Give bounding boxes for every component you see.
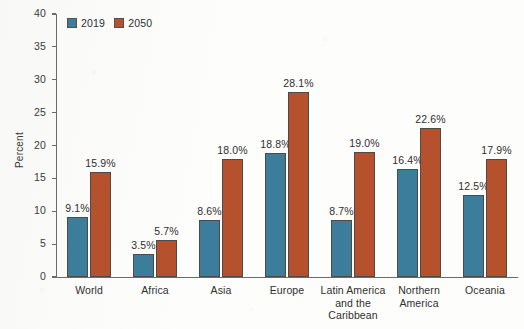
y-tick-label: 40 xyxy=(22,7,46,19)
y-tick-mark xyxy=(52,13,56,14)
bar-value-label: 15.9% xyxy=(77,157,125,169)
x-category-label: Oceania xyxy=(445,284,524,297)
bar-value-label: 19.0% xyxy=(341,137,389,149)
bar-2019-oceania[interactable] xyxy=(463,195,484,277)
bar-2050-oceania[interactable] xyxy=(486,159,507,277)
bar-value-label: 22.6% xyxy=(407,113,455,125)
x-axis-line xyxy=(56,277,518,278)
bar-2050-northern-america[interactable] xyxy=(420,128,441,277)
y-tick-label: 30 xyxy=(22,73,46,85)
chart-legend: 2019 2050 xyxy=(67,17,152,29)
y-tick-mark xyxy=(52,145,56,146)
y-tick-mark xyxy=(52,244,56,245)
y-tick-label: 0 xyxy=(22,270,46,282)
y-axis-line xyxy=(56,14,57,277)
y-tick-mark xyxy=(52,178,56,179)
bar-2050-europe[interactable] xyxy=(288,92,309,277)
legend-entry-2050[interactable]: 2050 xyxy=(114,17,152,29)
y-tick-label: 5 xyxy=(22,237,46,249)
legend-swatch-2019 xyxy=(67,18,77,28)
bar-2050-latin-america-and-the-caribbean[interactable] xyxy=(354,152,375,277)
bar-2019-europe[interactable] xyxy=(265,153,286,277)
legend-entry-2019[interactable]: 2019 xyxy=(67,17,105,29)
chart-figure: 2019 2050 Percent 05101520253035409.1%15… xyxy=(0,0,524,329)
y-tick-mark xyxy=(52,276,56,277)
bar-2050-world[interactable] xyxy=(90,172,111,277)
bar-2050-africa[interactable] xyxy=(156,240,177,277)
legend-swatch-2050 xyxy=(114,18,124,28)
bar-2050-asia[interactable] xyxy=(222,159,243,277)
bar-2019-northern-america[interactable] xyxy=(397,169,418,277)
legend-label-2019: 2019 xyxy=(81,17,105,29)
y-tick-mark xyxy=(52,46,56,47)
y-tick-label: 35 xyxy=(22,40,46,52)
bar-2019-africa[interactable] xyxy=(133,254,154,277)
y-tick-label: 25 xyxy=(22,106,46,118)
plot-area: 2019 2050 Percent 05101520253035409.1%15… xyxy=(0,0,524,329)
legend-label-2050: 2050 xyxy=(128,17,152,29)
bar-2019-latin-america-and-the-caribbean[interactable] xyxy=(331,220,352,277)
bar-value-label: 5.7% xyxy=(143,225,191,237)
x-category-label-line: Caribbean xyxy=(313,309,393,322)
y-tick-label: 15 xyxy=(22,171,46,183)
bar-value-label: 28.1% xyxy=(275,77,323,89)
y-tick-label: 10 xyxy=(22,204,46,216)
bar-value-label: 17.9% xyxy=(473,144,521,156)
bar-2019-asia[interactable] xyxy=(199,220,220,277)
x-category-label-line: America xyxy=(379,297,459,310)
bar-value-label: 18.0% xyxy=(209,144,257,156)
y-tick-label: 20 xyxy=(22,139,46,151)
bar-2019-world[interactable] xyxy=(67,217,88,277)
y-tick-mark xyxy=(52,79,56,80)
y-tick-mark xyxy=(52,112,56,113)
x-category-label-line: Oceania xyxy=(445,284,524,297)
